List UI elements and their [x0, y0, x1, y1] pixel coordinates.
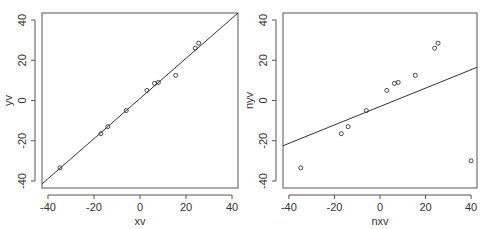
x-tick-label: 0 [137, 201, 143, 213]
plot-frame [283, 13, 477, 188]
data-point [469, 159, 473, 163]
data-point [413, 73, 417, 77]
data-point [392, 81, 396, 85]
x-tick-label: -40 [281, 201, 297, 213]
data-point [193, 46, 197, 50]
y-tick-label: 0 [257, 97, 269, 103]
x-tick-label: 20 [419, 201, 431, 213]
data-point [346, 125, 350, 129]
y-tick-label: 0 [16, 97, 28, 103]
x-axis-label: nxv [371, 215, 389, 227]
x-tick-label: 40 [226, 201, 238, 213]
x-tick-label: 20 [180, 201, 192, 213]
x-tick-label: -20 [327, 201, 343, 213]
plot-panel-xv-yv: -40-2002040-40-2002040xvyv [2, 13, 238, 227]
x-axis-label: xv [135, 215, 147, 227]
x-tick-label: 40 [465, 201, 477, 213]
x-tick-label: -40 [40, 201, 56, 213]
data-point [152, 81, 156, 85]
data-point [385, 88, 389, 92]
data-point [197, 41, 201, 45]
regression-line [42, 13, 238, 184]
regression-line [283, 67, 477, 145]
y-axis-label: nyv [243, 91, 255, 109]
data-point [436, 41, 440, 45]
data-point [433, 46, 437, 50]
scatter-plots: -40-2002040-40-2002040xvyv -40-2002040-4… [0, 0, 493, 229]
data-point [299, 166, 303, 170]
data-point [339, 132, 343, 136]
data-point [396, 80, 400, 84]
y-tick-label: -20 [257, 133, 269, 149]
y-axis-label: yv [2, 95, 14, 107]
y-tick-label: -40 [16, 173, 28, 189]
y-tick-label: 40 [16, 14, 28, 26]
plot-panel-nxv-nyv: -40-2002040-40-2002040nxvnyv [243, 13, 477, 227]
y-tick-label: 20 [16, 54, 28, 66]
data-point [174, 73, 178, 77]
y-tick-label: 20 [257, 54, 269, 66]
y-tick-label: -20 [16, 133, 28, 149]
x-tick-label: -20 [86, 201, 102, 213]
y-tick-label: 40 [257, 14, 269, 26]
x-tick-label: 0 [377, 201, 383, 213]
y-tick-label: -40 [257, 173, 269, 189]
